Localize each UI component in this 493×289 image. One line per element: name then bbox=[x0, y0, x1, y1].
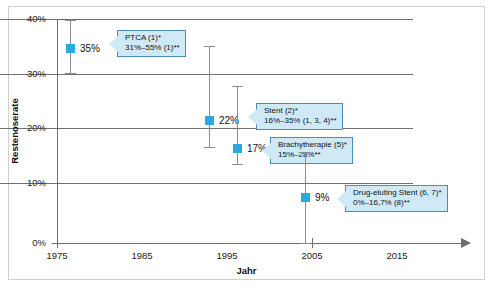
y-tick-label-20: 20% bbox=[27, 122, 46, 133]
errorbar-cap-top-brachytherapie bbox=[232, 86, 243, 87]
x-tick-label-1985: 1985 bbox=[131, 250, 152, 261]
callout-stent[interactable]: Stent (2)* 16%–35% (1, 3, 4)** bbox=[256, 103, 343, 130]
x-tick-label-1995: 1995 bbox=[216, 250, 237, 261]
data-point-brachytherapie[interactable] bbox=[233, 144, 242, 153]
errorbar-cap-top-stent bbox=[204, 46, 215, 47]
callout-arrow-drug-eluting-stent bbox=[337, 191, 346, 207]
data-label-ptca: 35% bbox=[80, 43, 100, 54]
gridline-40 bbox=[0, 19, 413, 20]
gridline-20 bbox=[0, 128, 413, 129]
x-axis-line bbox=[57, 243, 463, 244]
errorbar-cap-bottom-drug-eluting-stent bbox=[300, 243, 311, 244]
y-tick-label-10: 10% bbox=[27, 177, 46, 188]
errorbar-stent bbox=[209, 46, 210, 147]
callout-drug-eluting-stent-line1: Drug-eluting Stent (6, 7)* bbox=[353, 188, 442, 198]
y-tick-20 bbox=[52, 128, 58, 129]
y-tick-label-40: 40% bbox=[27, 13, 46, 24]
restenosis-rate-chart: 40% 30% 20% 10% 0% 1975 1985 1995 2005 2… bbox=[0, 0, 493, 289]
data-point-stent[interactable] bbox=[205, 116, 214, 125]
callout-stent-line2: 16%–35% (1, 3, 4)** bbox=[264, 116, 337, 126]
callout-brachytherapie-line1: Brachytherapie (5)* bbox=[278, 140, 347, 150]
callout-ptca-line2: 31%–55% (1)** bbox=[125, 43, 180, 53]
x-axis-arrow-icon bbox=[461, 238, 471, 248]
y-tick-label-0: 0% bbox=[32, 237, 46, 248]
x-axis-title: Jahr bbox=[0, 265, 493, 276]
x-tick-label-2005: 2005 bbox=[301, 250, 322, 261]
y-axis-line bbox=[57, 19, 58, 243]
y-tick-label-30: 30% bbox=[27, 68, 46, 79]
data-point-ptca[interactable] bbox=[66, 44, 75, 53]
callout-drug-eluting-stent[interactable]: Drug-eluting Stent (6, 7)* 0%–16,7% (8)*… bbox=[345, 185, 448, 212]
errorbar-cap-top-ptca bbox=[65, 20, 76, 21]
gridline-30 bbox=[0, 74, 413, 75]
errorbar-cap-top-drug-eluting-stent bbox=[300, 152, 311, 153]
x-tick-label-2015: 2015 bbox=[386, 250, 407, 261]
callout-arrow-brachytherapie bbox=[262, 143, 271, 159]
callout-stent-line1: Stent (2)* bbox=[264, 106, 337, 116]
data-point-drug-eluting-stent[interactable] bbox=[301, 193, 310, 202]
gridline-10 bbox=[0, 183, 413, 184]
x-tick-label-1975: 1975 bbox=[46, 250, 67, 261]
callout-brachytherapie-line2: 15%–28%** bbox=[278, 150, 347, 160]
callout-arrow-stent bbox=[248, 109, 257, 125]
callout-drug-eluting-stent-line2: 0%–16,7% (8)** bbox=[353, 198, 442, 208]
callout-arrow-ptca bbox=[109, 36, 118, 52]
data-label-drug-eluting-stent: 9% bbox=[315, 192, 329, 203]
errorbar-cap-bottom-brachytherapie bbox=[232, 164, 243, 165]
callout-ptca-line1: PTCA (1)* bbox=[125, 33, 180, 43]
y-axis-title: Restenoserate bbox=[9, 98, 20, 163]
x-tick-2005 bbox=[312, 238, 313, 248]
y-tick-30 bbox=[52, 74, 58, 75]
x-tick-1975 bbox=[57, 238, 58, 248]
errorbar-cap-bottom-stent bbox=[204, 147, 215, 148]
errorbar-cap-bottom-ptca bbox=[65, 73, 76, 74]
y-tick-40 bbox=[52, 19, 58, 20]
callout-ptca[interactable]: PTCA (1)* 31%–55% (1)** bbox=[117, 30, 186, 57]
data-label-stent: 22% bbox=[219, 115, 239, 126]
y-tick-10 bbox=[52, 183, 58, 184]
callout-brachytherapie[interactable]: Brachytherapie (5)* 15%–28%** bbox=[270, 137, 353, 164]
